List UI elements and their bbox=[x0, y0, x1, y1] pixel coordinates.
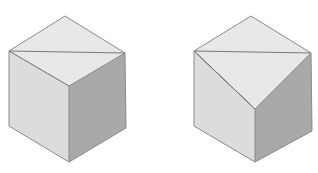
cube-left bbox=[9, 16, 126, 162]
cube-diagram bbox=[0, 0, 318, 173]
cube-right bbox=[194, 16, 312, 162]
